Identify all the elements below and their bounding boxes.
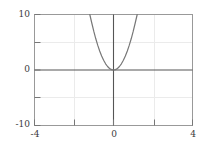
x-tick-label--4: -4 [24, 130, 46, 139]
x-tick-label-0: 0 [103, 130, 125, 139]
plot-area [0, 0, 205, 148]
y-tick-label--10: -10 [2, 120, 30, 129]
chart-figure: 10 0 -10 -4 0 4 [0, 0, 205, 148]
y-tick-label-10: 10 [6, 10, 30, 19]
y-tick-label-0: 0 [6, 65, 30, 74]
x-tick-label-4: 4 [182, 130, 204, 139]
